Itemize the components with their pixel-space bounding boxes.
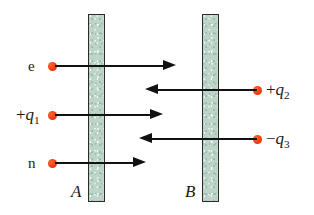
particle-q1-arrow-line xyxy=(55,114,150,116)
particle-e-label: e xyxy=(28,59,35,74)
particle-q3-sign: − xyxy=(266,129,276,148)
particle-e-arrow-line xyxy=(55,65,163,67)
particle-q1-arrow-head xyxy=(150,109,163,119)
particle-q3-subscript: 3 xyxy=(284,138,290,150)
particle-q1-label: +q1 xyxy=(16,106,40,123)
particle-q2-subscript: 2 xyxy=(284,89,290,101)
plate-b-label: B xyxy=(185,183,195,200)
particle-q1-symbol: q xyxy=(26,105,35,124)
particle-q3-label: −q3 xyxy=(266,130,290,147)
particle-q2-sign: + xyxy=(266,80,276,99)
particle-q1-subscript: 1 xyxy=(34,114,40,126)
particle-q1-sign: + xyxy=(16,105,26,124)
particle-q3-arrow-head xyxy=(139,133,152,143)
particle-q2-arrow-head xyxy=(145,84,158,94)
plate-b xyxy=(202,14,219,202)
particle-n-label: n xyxy=(28,156,36,171)
particle-q2-arrow-line xyxy=(158,89,257,91)
particle-n-arrow-head xyxy=(133,157,146,167)
plate-a xyxy=(88,14,105,202)
particle-n-arrow-line xyxy=(55,162,133,164)
physics-diagram: A B e+q2+q1−q3n xyxy=(0,0,314,215)
particle-q2-label: +q2 xyxy=(266,81,290,98)
particle-e-arrow-head xyxy=(163,60,176,70)
plate-a-label: A xyxy=(71,183,81,200)
particle-q3-symbol: q xyxy=(276,129,285,148)
particle-q2-symbol: q xyxy=(276,80,285,99)
particle-q3-arrow-line xyxy=(152,138,257,140)
